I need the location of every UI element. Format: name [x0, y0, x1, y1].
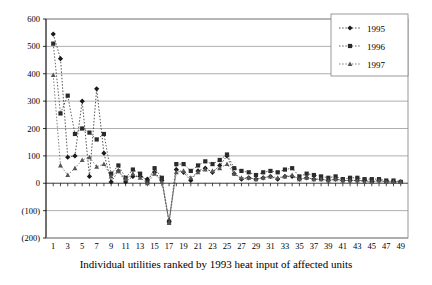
y-tick-label: 400 [27, 69, 40, 79]
x-tick-label: 5 [80, 241, 84, 251]
marker-square [239, 169, 243, 173]
marker-square [196, 163, 200, 167]
x-tick-label: 23 [208, 241, 217, 251]
marker-square [254, 173, 258, 177]
marker-square [153, 166, 157, 170]
y-tick-label: 500 [27, 41, 40, 51]
legend-label: 1995 [367, 24, 386, 34]
legend-label: 1997 [367, 60, 386, 70]
y-tick-label: 200 [27, 124, 40, 134]
x-tick-label: 43 [353, 241, 362, 251]
x-tick-label: 25 [223, 241, 232, 251]
marker-square [268, 169, 272, 173]
marker-square [58, 111, 62, 115]
x-tick-label: 45 [368, 241, 377, 251]
marker-square [247, 170, 251, 174]
x-tick-label: 17 [165, 241, 174, 251]
legend-label: 1996 [367, 42, 386, 52]
marker-square [261, 170, 265, 174]
marker-square [181, 162, 185, 166]
marker-square [290, 166, 294, 170]
x-tick-label: 7 [95, 241, 99, 251]
chart-container: 6005004003002001000(100)(200)13579111315… [0, 0, 432, 285]
marker-square [102, 132, 106, 136]
chart-svg: 6005004003002001000(100)(200)13579111315… [0, 0, 432, 285]
marker-square [160, 176, 164, 180]
marker-square [203, 159, 207, 163]
y-tick-label: 600 [27, 14, 40, 24]
marker-square [305, 172, 309, 176]
marker-square [174, 162, 178, 166]
marker-square [116, 163, 120, 167]
y-tick-label: 300 [27, 96, 40, 106]
x-tick-label: 15 [150, 241, 159, 251]
marker-square [51, 42, 55, 46]
x-tick-label: 41 [339, 241, 348, 251]
x-tick-label: 31 [266, 241, 275, 251]
marker-square [189, 169, 193, 173]
x-tick-label: 13 [136, 241, 145, 251]
y-tick-label: (100) [22, 206, 41, 216]
x-tick-label: 1 [51, 241, 55, 251]
x-tick-label: 11 [122, 241, 130, 251]
marker-square [73, 132, 77, 136]
marker-square [283, 167, 287, 171]
x-axis-title: Individual utilities ranked by 1993 heat… [0, 258, 432, 270]
y-tick-label: 100 [27, 151, 40, 161]
marker-square [312, 173, 316, 177]
marker-square [276, 170, 280, 174]
x-tick-label: 47 [382, 241, 391, 251]
x-tick-label: 19 [179, 241, 188, 251]
marker-square [66, 94, 70, 98]
marker-square [95, 137, 99, 141]
x-tick-label: 9 [109, 241, 113, 251]
marker-square [218, 158, 222, 162]
y-tick-label: 0 [36, 178, 40, 188]
marker-square [348, 44, 352, 48]
x-tick-label: 21 [194, 241, 203, 251]
x-tick-label: 33 [281, 241, 290, 251]
marker-square [232, 166, 236, 170]
x-tick-label: 27 [237, 241, 246, 251]
x-tick-label: 35 [295, 241, 304, 251]
x-tick-label: 29 [252, 241, 261, 251]
marker-square [138, 172, 142, 176]
marker-square [80, 126, 84, 130]
x-tick-label: 37 [310, 241, 319, 251]
x-tick-label: 39 [324, 241, 333, 251]
y-tick-label: (200) [22, 233, 41, 243]
marker-square [225, 152, 229, 156]
marker-square [131, 167, 135, 171]
marker-square [87, 131, 91, 135]
marker-square [210, 162, 214, 166]
x-tick-label: 3 [66, 241, 70, 251]
x-tick-label: 49 [397, 241, 406, 251]
